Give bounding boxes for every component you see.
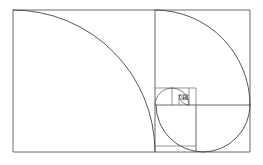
fibonacci-spiral-figure: Golden Ratio Fibonacci Spiral Nested gol… <box>0 0 263 165</box>
figure-background <box>0 0 263 165</box>
spiral-diagram-svg <box>0 0 263 165</box>
